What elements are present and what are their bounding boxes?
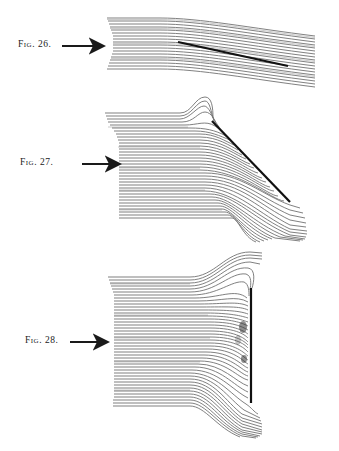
- fig28-label: Fig. 28.: [25, 335, 58, 345]
- fig26-label: Fig. 26.: [18, 39, 51, 49]
- figure-27: [82, 97, 307, 242]
- figure-28: [70, 252, 262, 438]
- fig27-label: Fig. 27.: [20, 157, 53, 167]
- flow-diagrams: [0, 0, 339, 451]
- figure-26: [62, 18, 315, 87]
- fig27-streamlines: [105, 97, 307, 242]
- fig28-streamlines: [108, 252, 262, 438]
